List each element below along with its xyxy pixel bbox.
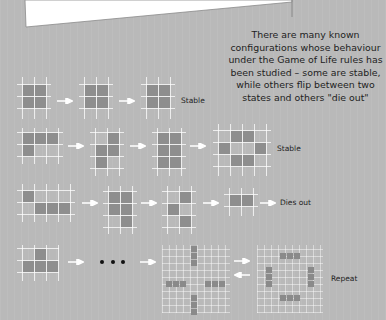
- pattern-row4-oscillator-b: [257, 245, 323, 313]
- right-arrow-icon: [68, 143, 84, 149]
- row-label-stable-2: Stable: [277, 144, 301, 153]
- pattern-row3-step1: [17, 184, 75, 222]
- caption-line: been studied – some are stable,: [228, 67, 383, 80]
- left-arrow-icon: [234, 272, 250, 278]
- pattern-row2-step1: [17, 128, 63, 164]
- pattern-block-1: [17, 77, 51, 119]
- pattern-block-2: [79, 77, 113, 119]
- caption-text: There are many known configurations whos…: [228, 29, 383, 105]
- right-arrow-icon: [234, 258, 250, 264]
- row-label-stable-1: Stable: [181, 96, 205, 105]
- right-arrow-icon: [190, 143, 206, 149]
- row-label-dies-out: Dies out: [280, 198, 311, 207]
- pattern-row4-oscillator-a: [162, 245, 230, 313]
- right-arrow-icon: [141, 200, 157, 206]
- pattern-row3-step4: [224, 188, 258, 216]
- paper-sheet: [0, 0, 386, 30]
- right-arrow-icon: [260, 200, 276, 206]
- right-arrow-icon: [140, 259, 156, 265]
- caption-line: There are many known: [228, 29, 383, 42]
- pattern-row4-step1: [17, 245, 59, 281]
- pattern-block-3: [141, 77, 175, 119]
- pattern-row3-step3: [162, 186, 196, 234]
- pattern-row2-step3: [152, 128, 186, 176]
- right-arrow-icon: [82, 200, 98, 206]
- pattern-row2-step2: [90, 128, 124, 176]
- right-arrow-icon: [57, 98, 73, 104]
- row-label-repeat: Repeat: [331, 274, 357, 283]
- caption-line: under the Game of Life rules has: [228, 54, 383, 67]
- pattern-row2-beehive: [213, 124, 271, 176]
- right-arrow-icon: [119, 98, 135, 104]
- right-arrow-icon: [130, 143, 146, 149]
- pattern-row3-step2: [103, 186, 137, 234]
- caption-line: states and others "die out": [228, 92, 383, 105]
- caption-line: while others flip between two: [228, 79, 383, 92]
- caption-line: configurations whose behaviour: [228, 42, 383, 55]
- right-arrow-icon: [203, 200, 219, 206]
- right-arrow-icon: [68, 259, 84, 265]
